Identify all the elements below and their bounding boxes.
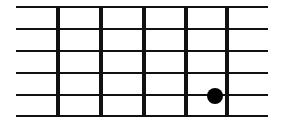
finger-dot xyxy=(207,88,223,104)
finger-dots-group xyxy=(207,88,223,104)
frets-group xyxy=(58,6,227,117)
fretboard-diagram xyxy=(0,0,281,135)
